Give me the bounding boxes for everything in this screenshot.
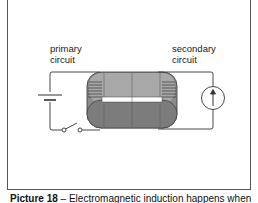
secondary-label-line1: secondary [172, 43, 216, 54]
caption-text: – Electromagnetic induction happens when [61, 193, 252, 203]
circuit-diagram [0, 0, 258, 203]
caption-number: Picture 18 [10, 193, 58, 203]
secondary-label-line2: circuit [172, 54, 216, 65]
iron-core-icon [87, 72, 177, 128]
primary-label-line1: primary [50, 43, 82, 54]
figure-caption: Picture 18 – Electromagnetic induction h… [10, 193, 251, 203]
switch-icon [62, 123, 82, 132]
secondary-circuit-label: secondary circuit [172, 43, 216, 65]
galvanometer-icon [202, 87, 225, 110]
primary-circuit-label: primary circuit [50, 43, 82, 65]
battery-icon [38, 95, 62, 100]
primary-label-line2: circuit [50, 54, 82, 65]
